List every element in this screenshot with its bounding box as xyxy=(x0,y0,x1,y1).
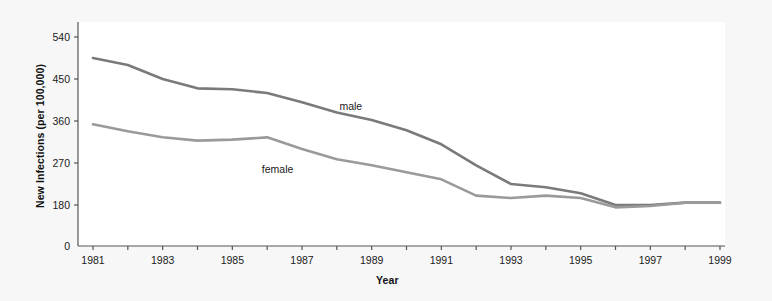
x-tick-label: 1983 xyxy=(151,254,174,266)
y-tick-label: 270 xyxy=(20,157,70,169)
x-tick-label: 1993 xyxy=(499,254,522,266)
x-tick-label: 1999 xyxy=(708,254,731,266)
series-label-female: female xyxy=(262,163,294,175)
x-axis-title: Year xyxy=(376,274,399,286)
x-tick-label: 1991 xyxy=(430,254,453,266)
y-tick-label: 540 xyxy=(20,31,70,43)
x-tick-label: 1995 xyxy=(569,254,592,266)
x-tick-label: 1997 xyxy=(639,254,662,266)
y-tick-label: 0 xyxy=(20,240,70,252)
series-label-male: male xyxy=(339,100,362,112)
chart-figure: New Infections (per 100,000) Year 018027… xyxy=(0,0,772,301)
x-tick-label: 1981 xyxy=(81,254,104,266)
y-tick-label: 180 xyxy=(20,199,70,211)
y-tick-label: 360 xyxy=(20,115,70,127)
plot-area-background xyxy=(78,22,725,246)
y-tick-label: 450 xyxy=(20,73,70,85)
x-tick-label: 1987 xyxy=(290,254,313,266)
x-tick-label: 1989 xyxy=(360,254,383,266)
x-tick-label: 1985 xyxy=(221,254,244,266)
